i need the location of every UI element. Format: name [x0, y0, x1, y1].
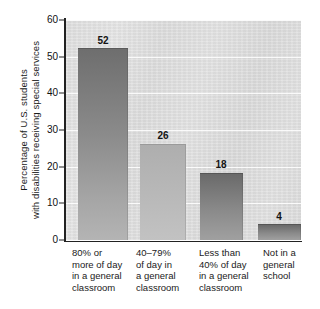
x-label-2-line-4: classroom — [136, 282, 179, 294]
bar-value-label-1: 52 — [97, 36, 108, 46]
y-tick-20: 20 — [47, 162, 58, 172]
y-tick-40: 40 — [47, 88, 58, 98]
x-label-3-line-2: 40% of day — [199, 259, 249, 271]
x-label-less-than-40-percent: Less than 40% of day in a general classr… — [199, 247, 249, 293]
bar-chart: Percentage of U.S. students with disabil… — [0, 0, 320, 309]
x-label-4-line-1: Not in a — [263, 247, 296, 259]
x-label-2-line-2: of day in — [136, 259, 179, 271]
x-label-3-line-3: in a general — [199, 270, 249, 282]
y-tick-60: 60 — [47, 15, 58, 25]
x-label-4-line-3: school — [263, 270, 296, 282]
x-label-4-line-2: general — [263, 259, 296, 271]
y-axis-title-line-1: Percentage of U.S. students — [18, 69, 29, 191]
x-label-2-line-3: a general — [136, 270, 179, 282]
x-label-1-line-2: more of day — [72, 259, 122, 271]
bar-40-to-79-percent[interactable] — [140, 144, 186, 240]
plot-area — [66, 20, 301, 240]
bar-value-label-4: 4 — [276, 212, 282, 222]
gridline-60 — [66, 20, 301, 21]
y-tick-50: 50 — [47, 52, 58, 62]
bar-80-percent-or-more[interactable] — [78, 48, 128, 240]
bar-less-than-40-percent[interactable] — [200, 173, 243, 240]
x-label-3-line-4: classroom — [199, 282, 249, 294]
x-label-80-percent-or-more: 80% or more of day in a general classroo… — [72, 247, 122, 293]
bar-value-label-2: 26 — [157, 131, 168, 141]
x-label-40-to-79-percent: 40–79% of day in a general classroom — [136, 247, 179, 293]
y-tick-10: 10 — [47, 198, 58, 208]
x-label-1-line-4: classroom — [72, 282, 122, 294]
x-label-not-in-general-school: Not in a general school — [263, 247, 296, 282]
y-axis-tick-labels: 60 50 40 30 20 10 0 — [36, 20, 58, 240]
y-tick-0: 0 — [52, 235, 58, 245]
x-label-2-line-1: 40–79% — [136, 247, 179, 259]
bar-not-in-general-school[interactable] — [258, 224, 301, 240]
y-tick-30: 30 — [47, 125, 58, 135]
x-axis-category-labels: 80% or more of day in a general classroo… — [64, 247, 308, 305]
x-label-3-line-1: Less than — [199, 247, 249, 259]
x-axis-line — [64, 241, 302, 243]
bar-value-label-3: 18 — [215, 160, 226, 170]
x-label-1-line-1: 80% or — [72, 247, 122, 259]
x-label-1-line-3: in a general — [72, 270, 122, 282]
